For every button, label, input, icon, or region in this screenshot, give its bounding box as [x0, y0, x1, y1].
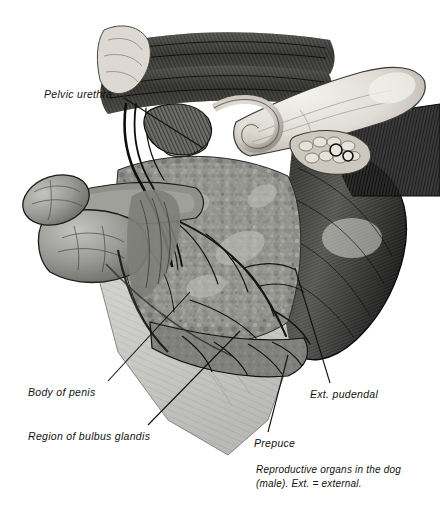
label-ext-pudendal: Ext. pudendal [310, 388, 378, 400]
label-pelvic-urethra: Pelvic urethra [44, 88, 112, 100]
anatomical-figure: Pelvic urethra Body of penis Region of b… [0, 0, 440, 517]
caption-line-1: Reproductive organs in the dog [256, 463, 436, 477]
label-body-of-penis: Body of penis [28, 386, 96, 398]
caption-line-2: (male). Ext. = external. [256, 477, 436, 491]
label-region-of-bulbus-glandis: Region of bulbus glandis [28, 430, 150, 442]
figure-caption: Reproductive organs in the dog (male). E… [256, 463, 436, 490]
label-prepuce: Prepuce [254, 437, 295, 449]
